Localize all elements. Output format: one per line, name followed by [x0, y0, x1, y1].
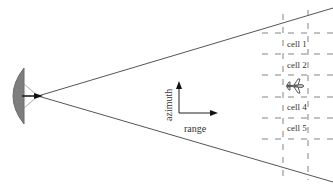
cell-5-label: cell 5: [287, 123, 307, 133]
cell-grid: [262, 10, 333, 180]
cell-2-label: cell 2: [287, 60, 307, 70]
radar-diagram: azimuth range cell 1 cell 2 cell 4 cell …: [0, 0, 333, 188]
cell-1-label: cell 1: [287, 39, 307, 49]
axes-indicator: [176, 81, 218, 116]
range-label: range: [184, 123, 207, 134]
aircraft-icon: [286, 79, 304, 93]
azimuth-label: azimuth: [163, 89, 174, 121]
radar-dish-icon: [13, 68, 43, 124]
cell-4-label: cell 4: [287, 102, 307, 112]
